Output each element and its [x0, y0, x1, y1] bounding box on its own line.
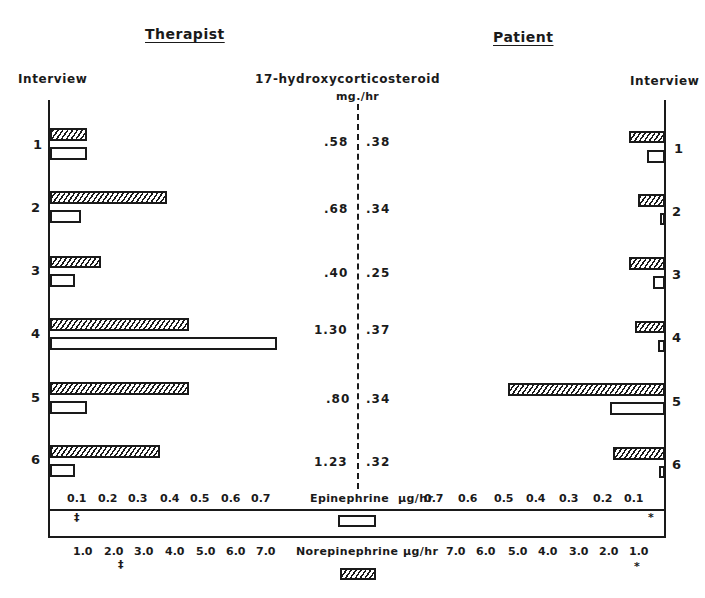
- steroid-unit: mg./hr: [336, 90, 379, 103]
- patient-epi-bar-2: [660, 213, 665, 225]
- steroid-therapist-3: .40: [324, 266, 348, 280]
- norepi-tick-right-6.0: 6.0: [476, 545, 496, 558]
- patient-norepi-bar-1: [629, 131, 665, 143]
- patient-epi-bar-3: [653, 276, 665, 289]
- therapist-interview-2: 2: [31, 200, 40, 215]
- patient-interview-2: 2: [672, 204, 681, 219]
- norepi-tick-right-5.0: 5.0: [508, 545, 528, 558]
- epi-tick-right-0.4: 0.4: [526, 492, 546, 505]
- epi-tick-right-0.3: 0.3: [559, 492, 579, 505]
- therapist-norepi-bar-2: [50, 191, 167, 204]
- norepi-tick-right-2.0: 2.0: [599, 545, 619, 558]
- therapist-epi-bar-5: [50, 401, 87, 414]
- therapist-interview-3: 3: [31, 263, 40, 278]
- patient-interview-5: 5: [672, 394, 681, 409]
- patient-norepi-bar-3: [629, 257, 665, 270]
- patient-interview-4: 4: [672, 330, 681, 345]
- therapist-norepi-bar-5: [50, 382, 189, 395]
- epi-tick-right-0.6: 0.6: [458, 492, 478, 505]
- norepi-tick-left-5.0: 5.0: [196, 545, 216, 558]
- patient-interview-1: 1: [674, 141, 683, 156]
- patient-title: Patient: [493, 29, 553, 45]
- steroid-therapist-6: 1.23: [314, 455, 348, 469]
- therapist-epi-bar-4: [50, 337, 277, 350]
- steroid-therapist-5: .80: [326, 392, 350, 406]
- therapist-interview-5: 5: [31, 390, 40, 405]
- therapist-interview-6: 6: [31, 452, 40, 467]
- epi-tick-right-0.1: 0.1: [624, 492, 644, 505]
- epi-tick-left-0.5: 0.5: [190, 492, 210, 505]
- epi-right-marker: *: [648, 511, 654, 524]
- norepi-tick-left-4.0: 4.0: [165, 545, 185, 558]
- therapist-epi-bar-6: [50, 464, 75, 477]
- norepi-tick-right-3.0: 3.0: [569, 545, 589, 558]
- patient-epi-bar-5: [610, 402, 665, 415]
- norepi-tick-right-4.0: 4.0: [538, 545, 558, 558]
- norepi-tick-left-3.0: 3.0: [134, 545, 154, 558]
- scale-bottom-line: [48, 536, 666, 538]
- epi-tick-left-0.3: 0.3: [128, 492, 148, 505]
- steroid-patient-1: .38: [366, 135, 390, 149]
- epi-tick-right-0.2: 0.2: [593, 492, 613, 505]
- steroid-therapist-2: .68: [324, 202, 348, 216]
- norepi-tick-left-6.0: 6.0: [226, 545, 246, 558]
- legend-norepinephrine-swatch: [340, 568, 376, 580]
- patient-interview-6: 6: [672, 457, 681, 472]
- therapist-epi-bar-1: [50, 147, 87, 160]
- norepi-right-marker: *: [634, 560, 640, 573]
- norepinephrine-unit: µg/hr: [403, 545, 438, 558]
- epi-left-marker: ‡: [74, 511, 80, 524]
- norepinephrine-axis-label: Norepinephrine: [296, 545, 398, 558]
- patient-epi-bar-1: [647, 150, 665, 163]
- patient-norepi-bar-6: [613, 447, 665, 460]
- patient-interview-3: 3: [672, 267, 681, 282]
- therapist-norepi-bar-6: [50, 445, 160, 458]
- therapist-epi-bar-3: [50, 274, 75, 287]
- therapist-norepi-bar-4: [50, 318, 189, 331]
- steroid-patient-4: .37: [366, 323, 390, 337]
- therapist-norepi-bar-3: [50, 256, 101, 268]
- patient-epi-bar-4: [658, 340, 665, 352]
- epi-tick-left-0.4: 0.4: [160, 492, 180, 505]
- therapist-title: Therapist: [145, 26, 225, 42]
- patient-norepi-bar-2: [638, 194, 665, 207]
- left-interview-label: Interview: [18, 72, 87, 86]
- therapist-norepi-bar-1: [50, 128, 87, 141]
- right-interview-label: Interview: [630, 74, 699, 88]
- norepi-tick-left-2.0: 2.0: [104, 545, 124, 558]
- steroid-patient-6: .32: [366, 455, 390, 469]
- epi-tick-right-0.7: 0.7: [424, 492, 444, 505]
- norepi-left-marker: ‡: [118, 558, 124, 571]
- steroid-therapist-1: .58: [324, 135, 348, 149]
- therapist-interview-1: 1: [33, 137, 42, 152]
- epi-tick-left-0.6: 0.6: [221, 492, 241, 505]
- epi-tick-left-0.7: 0.7: [251, 492, 271, 505]
- steroid-patient-2: .34: [366, 202, 390, 216]
- epi-tick-right-0.5: 0.5: [494, 492, 514, 505]
- legend-epinephrine-swatch: [338, 515, 376, 527]
- patient-epi-bar-6: [659, 466, 665, 478]
- steroid-patient-3: .25: [366, 266, 390, 280]
- steroid-title: 17-hydroxycorticosteroid: [255, 72, 440, 86]
- center-dashed-divider: [357, 104, 359, 489]
- norepi-tick-left-7.0: 7.0: [256, 545, 276, 558]
- epinephrine-axis-label: Epinephrine: [310, 492, 389, 505]
- patient-norepi-bar-5: [508, 383, 665, 396]
- epi-tick-left-0.2: 0.2: [98, 492, 118, 505]
- therapist-interview-4: 4: [31, 326, 40, 341]
- scale-divider-line: [48, 509, 666, 511]
- patient-norepi-bar-4: [635, 321, 665, 333]
- steroid-patient-5: .34: [366, 392, 390, 406]
- epi-tick-left-0.1: 0.1: [67, 492, 87, 505]
- norepi-tick-right-1.0: 1.0: [629, 545, 649, 558]
- steroid-therapist-4: 1.30: [314, 323, 348, 337]
- norepi-tick-left-1.0: 1.0: [73, 545, 93, 558]
- therapist-epi-bar-2: [50, 210, 81, 223]
- norepi-tick-right-7.0: 7.0: [446, 545, 466, 558]
